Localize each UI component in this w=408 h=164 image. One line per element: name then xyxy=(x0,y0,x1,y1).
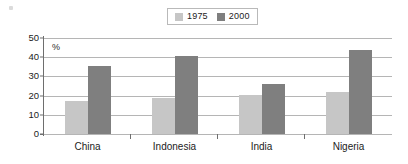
bar-groups: ChinaIndonesiaIndiaNigeria xyxy=(44,38,392,134)
chart-legend: 1975 2000 xyxy=(167,8,258,25)
gridline-0 xyxy=(44,134,392,135)
bar-group-china: China xyxy=(44,38,131,134)
y-tick-label-50: 50 xyxy=(28,33,39,43)
legend-swatch-1975 xyxy=(175,13,183,21)
plot-area: % 01020304050 ChinaIndonesiaIndiaNigeria xyxy=(44,38,392,134)
y-tick-label-10: 10 xyxy=(28,110,39,120)
bar-nigeria-2000 xyxy=(349,50,372,134)
bars xyxy=(305,38,392,134)
bars xyxy=(218,38,305,134)
bar-india-2000 xyxy=(262,84,285,134)
legend-label-1975: 1975 xyxy=(187,12,208,21)
x-axis-label-indonesia: Indonesia xyxy=(131,142,218,152)
chart-page: 1975 2000 % 01020304050 ChinaIndonesiaIn… xyxy=(0,0,408,164)
bar-china-1975 xyxy=(65,101,88,134)
legend-entry-1975: 1975 xyxy=(175,12,208,21)
bar-group-indonesia: Indonesia xyxy=(131,38,218,134)
legend-swatch-2000 xyxy=(217,13,225,21)
bar-indonesia-1975 xyxy=(152,98,175,134)
bar-china-2000 xyxy=(88,66,111,134)
bar-india-1975 xyxy=(239,95,262,134)
x-tick-mark-0 xyxy=(130,134,131,139)
x-tick-mark-1 xyxy=(217,134,218,139)
bar-indonesia-2000 xyxy=(175,56,198,134)
bar-nigeria-1975 xyxy=(326,92,349,134)
bar-group-india: India xyxy=(218,38,305,134)
legend-label-2000: 2000 xyxy=(229,12,250,21)
x-axis-label-china: China xyxy=(44,142,131,152)
y-tick-label-40: 40 xyxy=(28,52,39,62)
x-tick-mark-2 xyxy=(304,134,305,139)
x-axis-label-india: India xyxy=(218,142,305,152)
x-axis-label-nigeria: Nigeria xyxy=(305,142,392,152)
bar-group-nigeria: Nigeria xyxy=(305,38,392,134)
y-tick-label-20: 20 xyxy=(28,91,39,101)
y-tick-label-30: 30 xyxy=(28,72,39,82)
legend-entry-2000: 2000 xyxy=(217,12,250,21)
bars xyxy=(131,38,218,134)
bars xyxy=(44,38,131,134)
scan-artifact xyxy=(9,6,13,10)
y-tick-label-0: 0 xyxy=(34,129,39,139)
